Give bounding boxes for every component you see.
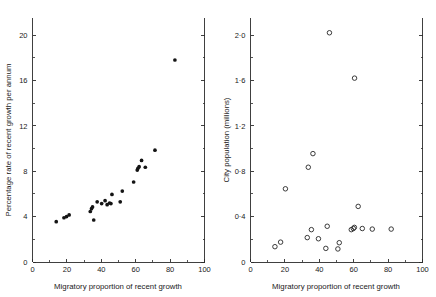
right-x-tick-label: 0 — [248, 265, 252, 274]
left-plot-axes — [33, 18, 205, 262]
right-data-point — [336, 247, 341, 252]
left-x-tick-label: 60 — [132, 265, 140, 274]
right-data-point — [273, 244, 278, 249]
left-data-point — [67, 213, 71, 217]
right-data-point — [311, 151, 316, 156]
right-plot-ticklabels: 02040608010000·40·81·21·62·0 — [235, 31, 429, 274]
left-y-axis-title: Percentage rate of recent growth per ann… — [4, 64, 13, 217]
right-data-point — [309, 227, 314, 232]
left-data-point — [110, 193, 114, 197]
right-data-point — [324, 246, 329, 251]
right-y-tick-label: 0·4 — [235, 212, 246, 221]
right-data-point — [352, 76, 357, 81]
right-data-point — [283, 187, 288, 192]
right-x-tick-label: 60 — [350, 265, 358, 274]
right-plot-ticks — [251, 35, 423, 262]
right-data-point — [356, 204, 361, 209]
left-data-point — [95, 200, 99, 204]
left-y-tick-label: 8 — [23, 167, 27, 176]
left-data-point — [173, 58, 177, 62]
left-x-tick-label: 20 — [63, 265, 71, 274]
right-data-point — [352, 225, 357, 230]
left-y-tick-label: 0 — [23, 258, 27, 267]
left-data-point — [54, 220, 58, 224]
right-y-tick-label: 0 — [241, 258, 245, 267]
left-data-point — [109, 202, 113, 206]
left-x-tick-label: 40 — [97, 265, 105, 274]
right-x-tick-label: 100 — [416, 265, 429, 274]
right-y-axis-title: City population (millions) — [222, 97, 231, 182]
right-plot-axes — [251, 18, 423, 262]
left-plot-points — [54, 58, 176, 223]
panel-right: 02040608010000·40·81·21·62·0 Migratory p… — [218, 0, 436, 297]
left-data-point — [143, 165, 147, 169]
left-data-point — [153, 148, 157, 152]
two-panel-scatter-figure: 020406080100048121620 Migratory proporti… — [0, 0, 436, 297]
left-x-axis-title: Migratory proportion of recent growth — [54, 282, 182, 291]
right-data-point — [325, 224, 330, 229]
right-data-point — [305, 235, 310, 240]
left-x-tick-label: 80 — [166, 265, 174, 274]
right-y-tick-label: 1·6 — [235, 76, 246, 85]
right-data-point — [389, 227, 394, 232]
left-x-tick-label: 100 — [198, 265, 211, 274]
left-y-tick-label: 20 — [19, 31, 27, 40]
right-data-point — [306, 165, 311, 170]
right-x-tick-label: 80 — [384, 265, 392, 274]
panel-left: 020406080100048121620 Migratory proporti… — [0, 0, 218, 297]
left-data-point — [103, 199, 107, 203]
right-data-point — [327, 31, 332, 36]
right-y-tick-label: 2·0 — [235, 31, 246, 40]
right-y-tick-label: 0·8 — [235, 167, 246, 176]
right-x-axis-title: Migratory proportion of recent growth — [272, 282, 400, 291]
right-data-point — [316, 236, 321, 241]
left-scatter-plot: 020406080100048121620 Migratory proporti… — [0, 0, 218, 297]
left-data-point — [100, 202, 104, 206]
left-plot-ticklabels: 020406080100048121620 — [19, 31, 211, 274]
left-data-point — [91, 205, 95, 209]
left-data-point — [92, 218, 96, 222]
right-y-tick-label: 1·2 — [235, 122, 246, 131]
left-data-point — [132, 180, 136, 184]
left-data-point — [120, 189, 124, 193]
left-y-tick-label: 12 — [19, 122, 27, 131]
right-data-point — [278, 240, 283, 245]
right-data-point — [337, 240, 342, 245]
right-data-point — [360, 226, 365, 231]
left-y-tick-label: 4 — [23, 212, 27, 221]
left-data-point — [118, 200, 122, 204]
left-plot-ticks — [33, 35, 205, 262]
left-x-tick-label: 0 — [30, 265, 34, 274]
right-scatter-plot: 02040608010000·40·81·21·62·0 Migratory p… — [218, 0, 436, 297]
right-data-point — [370, 227, 375, 232]
right-plot-points — [273, 31, 394, 252]
left-y-tick-label: 16 — [19, 76, 27, 85]
left-data-point — [140, 159, 144, 163]
right-x-tick-label: 20 — [281, 265, 289, 274]
left-data-point — [137, 165, 141, 169]
right-x-tick-label: 40 — [315, 265, 323, 274]
